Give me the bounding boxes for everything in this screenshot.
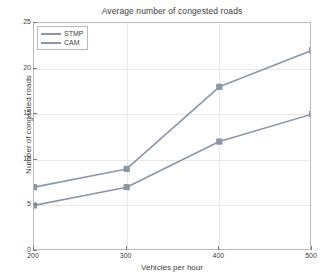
- y-tick-mark: [33, 204, 37, 205]
- legend-line-swatch: [40, 38, 62, 47]
- x-tick-label: 500: [291, 252, 326, 259]
- legend-entry-cam[interactable]: CAM: [40, 38, 83, 47]
- y-tick-label: 25: [5, 18, 31, 25]
- legend-label: STMP: [64, 29, 83, 38]
- data-point-marker: [124, 185, 129, 190]
- legend-label: CAM: [64, 38, 80, 47]
- data-point-marker: [217, 139, 222, 144]
- y-tick-mark: [33, 250, 37, 251]
- x-tick-mark: [126, 246, 127, 250]
- x-tick-label: 200: [13, 252, 53, 259]
- data-point-marker: [309, 48, 311, 53]
- x-tick-label: 300: [106, 252, 146, 259]
- x-tick-mark: [311, 246, 312, 250]
- figure-canvas: Average number of congested roads 051015…: [0, 0, 326, 279]
- plot-area: [33, 22, 311, 250]
- legend-line-swatch: [40, 29, 62, 38]
- y-tick-mark: [33, 68, 37, 69]
- data-point-marker: [309, 112, 311, 117]
- x-tick-mark: [33, 246, 34, 250]
- series-cam: [34, 112, 311, 208]
- series-stmp: [34, 48, 311, 190]
- data-point-marker: [34, 185, 37, 190]
- chart-title: Average number of congested roads: [33, 6, 311, 16]
- data-point-marker: [124, 166, 129, 171]
- y-tick-mark: [33, 159, 37, 160]
- series-line: [34, 50, 311, 187]
- y-tick-mark: [33, 113, 37, 114]
- y-axis-label: Number of congested roads: [24, 35, 33, 215]
- x-axis-label: Vehicles per hour: [33, 263, 311, 272]
- legend-entry-stmp[interactable]: STMP: [40, 29, 83, 38]
- y-tick-mark: [33, 22, 37, 23]
- x-tick-mark: [218, 246, 219, 250]
- legend: STMPCAM: [37, 26, 88, 50]
- data-point-marker: [217, 84, 222, 89]
- x-tick-label: 400: [198, 252, 238, 259]
- series-layer: [34, 23, 311, 250]
